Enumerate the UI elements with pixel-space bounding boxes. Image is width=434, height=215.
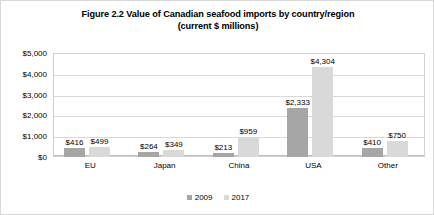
bar-value-label: $410: [363, 138, 381, 147]
bar-value-label: $213: [214, 143, 232, 152]
x-axis-category-china: China: [229, 161, 250, 170]
legend-label: 2017: [232, 193, 250, 202]
y-axis-tick-label: $4,000: [1, 69, 47, 78]
bar-japan-2017[interactable]: [163, 150, 184, 157]
bar-group: $213$959: [202, 53, 276, 157]
bar-usa-2009[interactable]: [287, 108, 308, 157]
bar-group: $416$499: [53, 53, 127, 157]
bar-value-label: $416: [66, 138, 84, 147]
chart-legend: 20092017: [1, 193, 434, 202]
bar-china-2009[interactable]: [213, 153, 234, 157]
bar-other-2009[interactable]: [362, 148, 383, 157]
bar-group: $410$750: [351, 53, 425, 157]
x-axis-category-other: Other: [378, 161, 398, 170]
y-axis-tick-label: $5,000: [1, 49, 47, 58]
y-axis-tick-label: $2,000: [1, 111, 47, 120]
legend-swatch-icon: [224, 195, 229, 200]
y-axis-tick-label: $1,000: [1, 132, 47, 141]
bar-value-label: $264: [140, 142, 158, 151]
chart-title-line-1: Figure 2.2 Value of Canadian seafood imp…: [1, 8, 434, 20]
bar-value-label: $959: [239, 127, 257, 136]
bar-value-label: $750: [388, 131, 406, 140]
chart-title-line-2: (current $ millions): [1, 20, 434, 32]
chart-title: Figure 2.2 Value of Canadian seafood imp…: [1, 8, 434, 32]
bar-group: $264$349: [127, 53, 201, 157]
x-axis-category-usa: USA: [305, 161, 321, 170]
y-axis-tick-label: $3,000: [1, 90, 47, 99]
bar-group: $2,333$4,304: [276, 53, 350, 157]
legend-swatch-icon: [187, 195, 192, 200]
bar-other-2017[interactable]: [387, 141, 408, 157]
bar-china-2017[interactable]: [238, 137, 259, 157]
bar-value-label: $349: [165, 140, 183, 149]
bar-eu-2017[interactable]: [89, 147, 110, 157]
bar-usa-2017[interactable]: [312, 67, 333, 157]
legend-item-2017[interactable]: 2017: [224, 193, 250, 202]
bar-eu-2009[interactable]: [64, 148, 85, 157]
legend-item-2009[interactable]: 2009: [187, 193, 213, 202]
bar-value-label: $2,333: [285, 98, 309, 107]
bar-value-label: $4,304: [310, 57, 334, 66]
plot-area-wrapper: $416$499$264$349$213$959$2,333$4,304$410…: [53, 53, 425, 157]
legend-label: 2009: [195, 193, 213, 202]
x-axis-category-eu: EU: [85, 161, 96, 170]
chart-container: Figure 2.2 Value of Canadian seafood imp…: [0, 0, 434, 215]
bar-japan-2009[interactable]: [138, 152, 159, 157]
y-axis-tick-label: $0: [1, 153, 47, 162]
bar-value-label: $499: [91, 137, 109, 146]
x-axis-category-japan: Japan: [154, 161, 176, 170]
